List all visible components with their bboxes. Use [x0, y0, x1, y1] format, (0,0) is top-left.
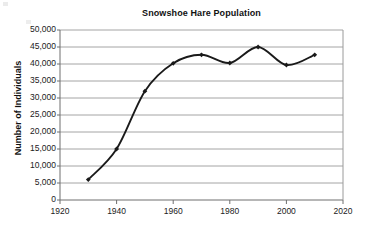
chart-figure: Snowshoe Hare Population Number of Indiv…	[0, 0, 373, 233]
scan-artifact	[26, 20, 31, 24]
x-tick-label: 1980	[210, 206, 250, 216]
x-tick-label: 1920	[40, 206, 80, 216]
scan-artifact	[3, 2, 8, 6]
x-tick-label: 2020	[323, 206, 363, 216]
x-tick-label-group: 192019401960198020002020	[0, 0, 373, 233]
x-tick-label: 1940	[97, 206, 137, 216]
x-tick-label: 1960	[153, 206, 193, 216]
x-tick-label: 2000	[266, 206, 306, 216]
